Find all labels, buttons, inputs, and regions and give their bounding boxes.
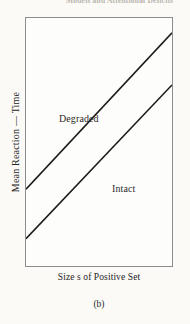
page-header-bleed-label: Models and Attentional Deficits [66, 0, 188, 4]
series-label-degraded: Degraded [59, 113, 99, 124]
series-lines [26, 33, 172, 239]
page-header-bleed-text: Models and Attentional Deficits [66, 0, 188, 5]
x-axis-label: Size s of Positive Set [25, 272, 173, 282]
plot-canvas [26, 18, 172, 266]
figure-panel-b: Models and Attentional Deficits Degraded… [0, 0, 190, 324]
series-line-intact [26, 85, 172, 239]
plot-frame: Degraded Intact [25, 17, 173, 267]
series-label-intact: Intact [112, 183, 135, 194]
figure-caption: (b) [25, 299, 173, 309]
series-line-degraded [26, 33, 172, 189]
y-axis-label: Mean Reaction — Time [7, 17, 25, 267]
